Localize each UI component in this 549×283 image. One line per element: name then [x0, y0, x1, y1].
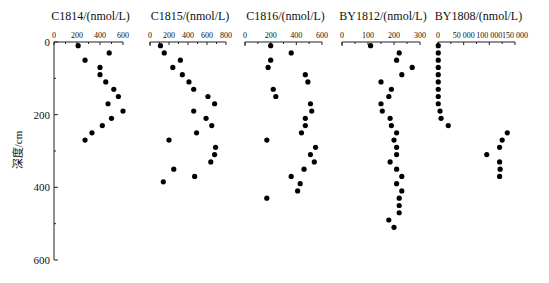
data-point: [399, 174, 404, 179]
data-point: [308, 152, 313, 157]
x-tick-label: 0: [436, 31, 440, 40]
panel-title: C1816/(nmol/L): [246, 9, 325, 23]
data-point: [273, 94, 278, 99]
data-point: [397, 203, 402, 208]
data-point: [497, 174, 502, 179]
data-point: [76, 43, 81, 48]
data-point: [100, 123, 105, 128]
data-point: [380, 108, 385, 113]
data-point: [394, 167, 399, 172]
data-point: [299, 130, 304, 135]
data-point: [436, 101, 441, 106]
data-point: [266, 65, 271, 70]
data-point: [436, 79, 441, 84]
data-point: [105, 101, 110, 106]
data-point: [166, 137, 171, 142]
data-point: [303, 72, 308, 77]
data-point: [180, 72, 185, 77]
x-tick-label: 300: [414, 31, 426, 40]
data-point: [109, 116, 114, 121]
data-point: [436, 58, 441, 63]
y-tick-label: 0: [45, 36, 51, 48]
panel-title: BY1808/(nmol/L): [435, 9, 522, 23]
data-point: [82, 58, 87, 63]
x-tick-label: 400: [290, 31, 302, 40]
x-tick-label: 200: [71, 31, 83, 40]
panel-c1816: C1816/(nmol/L)0200400600: [243, 9, 328, 201]
panel-by1812: BY1812/(nmol/L)0100200300: [339, 9, 426, 230]
y-axis: 0200400600: [34, 36, 59, 266]
data-point: [97, 65, 102, 70]
data-point: [386, 94, 391, 99]
data-point: [397, 210, 402, 215]
data-point: [394, 181, 399, 186]
x-tick-label: 50 000: [453, 31, 475, 40]
data-point: [213, 145, 218, 150]
data-point: [399, 188, 404, 193]
data-point: [97, 72, 102, 77]
data-point: [436, 94, 441, 99]
data-point: [388, 159, 393, 164]
data-point: [386, 217, 391, 222]
x-tick-label: 400: [182, 31, 194, 40]
data-point: [313, 145, 318, 150]
data-point: [394, 130, 399, 135]
y-tick-label: 200: [34, 109, 51, 121]
data-point: [212, 152, 217, 157]
data-point: [116, 94, 121, 99]
data-point: [303, 123, 308, 128]
x-tick-label: 0: [243, 31, 247, 40]
x-tick-label: 200: [163, 31, 175, 40]
panel-by1808: BY1808/(nmol/L)050 000100 000150 000: [435, 9, 528, 179]
data-point: [171, 167, 176, 172]
data-point: [378, 101, 383, 106]
data-point: [388, 116, 393, 121]
data-point: [192, 174, 197, 179]
data-point: [205, 94, 210, 99]
data-point: [120, 108, 125, 113]
data-point: [107, 50, 112, 55]
data-point: [389, 123, 394, 128]
data-point: [497, 145, 502, 150]
data-point: [303, 116, 308, 121]
x-tick-label: 800: [220, 31, 232, 40]
data-point: [394, 145, 399, 150]
data-point: [391, 225, 396, 230]
data-point: [89, 130, 94, 135]
data-point: [301, 167, 306, 172]
x-tick-label: 200: [265, 31, 277, 40]
data-point: [389, 87, 394, 92]
data-point: [436, 65, 441, 70]
data-point: [436, 50, 441, 55]
data-point: [436, 72, 441, 77]
panel-title: BY1812/(nmol/L): [339, 9, 426, 23]
data-point: [268, 43, 273, 48]
data-point: [264, 137, 269, 142]
y-tick-label: 600: [34, 254, 51, 266]
panels: C1814/(nmol/L)0200400600C1815/(nmol/L)02…: [51, 9, 528, 230]
panel-title: C1815/(nmol/L): [151, 9, 230, 23]
data-point: [82, 137, 87, 142]
data-point: [391, 137, 396, 142]
data-point: [436, 43, 441, 48]
data-point: [103, 79, 108, 84]
data-point: [312, 159, 317, 164]
panel-c1814: C1814/(nmol/L)0200400600: [51, 9, 130, 143]
x-tick-label: 100 000: [476, 31, 502, 40]
data-point: [397, 50, 402, 55]
data-point: [368, 43, 373, 48]
data-point: [437, 108, 442, 113]
data-point: [295, 188, 300, 193]
data-point: [438, 116, 443, 121]
depth-profile-chart: 0200400600 深度/cm C1814/(nmol/L)020040060…: [0, 0, 549, 283]
panel-c1815: C1815/(nmol/L)0200400600800: [148, 9, 232, 184]
data-point: [399, 72, 404, 77]
data-point: [191, 87, 196, 92]
x-tick-label: 400: [94, 31, 106, 40]
data-point: [498, 167, 503, 172]
data-point: [394, 152, 399, 157]
data-point: [186, 79, 191, 84]
data-point: [203, 116, 208, 121]
data-point: [264, 196, 269, 201]
data-point: [170, 65, 175, 70]
